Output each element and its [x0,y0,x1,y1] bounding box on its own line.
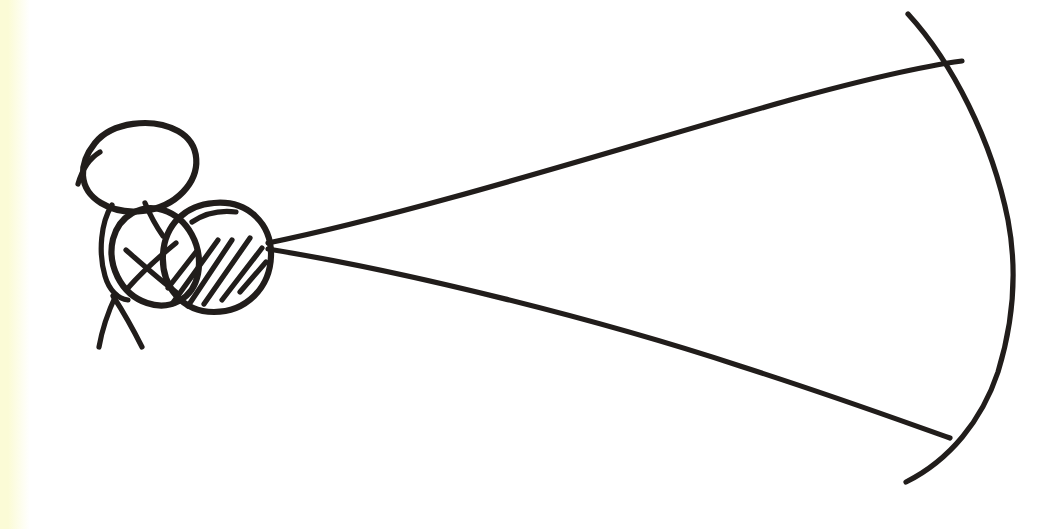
figure-head-group [78,123,196,211]
figure-legs-group [99,295,142,347]
hatched-oval-group [163,203,271,312]
hatch-stroke-1 [168,252,196,288]
bow-arc [906,14,1013,482]
head-ellipse [83,123,196,211]
hatch-top-accent [192,211,236,222]
leg-right [113,296,142,347]
sketch-canvas: Person holding a bow drawn with a wide a… [0,0,1056,529]
bowstring-group [268,61,962,438]
upper-bowstring [268,61,962,243]
leg-left [99,295,116,347]
lower-bowstring [268,249,950,438]
bow-arc-group [906,14,1013,482]
ink-drawing [0,0,1056,529]
